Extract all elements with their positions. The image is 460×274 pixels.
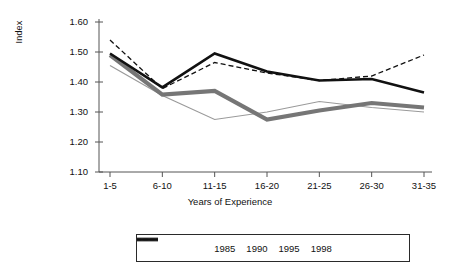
legend-item-1995: 1995 bbox=[279, 243, 300, 254]
chart-legend: 1985199019951998 bbox=[136, 234, 410, 262]
chart-figure: Index 1.101.201.301.401.501.60 1-56-1011… bbox=[0, 0, 460, 274]
y-tick-label: 1.50 bbox=[46, 46, 88, 57]
y-tick-label: 1.30 bbox=[46, 106, 88, 117]
legend-item-1998: 1998 bbox=[311, 243, 332, 254]
legend-label: 1998 bbox=[311, 243, 332, 254]
legend-label: 1985 bbox=[214, 243, 235, 254]
x-axis-title: Years of Experience bbox=[0, 196, 460, 207]
x-tick-label: 1-5 bbox=[103, 180, 117, 191]
y-tick-label: 1.20 bbox=[46, 136, 88, 147]
y-tick-label: 1.10 bbox=[46, 166, 88, 177]
x-tick-label: 11-15 bbox=[203, 180, 227, 191]
series-line-1995 bbox=[110, 54, 424, 93]
x-tick-label: 26-30 bbox=[360, 180, 384, 191]
legend-item-1985: 1985 bbox=[214, 243, 235, 254]
y-tick-label: 1.40 bbox=[46, 76, 88, 87]
series-line-1990 bbox=[110, 55, 424, 120]
y-tick-label: 1.60 bbox=[46, 16, 88, 27]
legend-label: 1995 bbox=[279, 243, 300, 254]
legend-swatch-1998 bbox=[137, 235, 158, 244]
legend-item-1990: 1990 bbox=[246, 243, 267, 254]
legend-label: 1990 bbox=[246, 243, 267, 254]
x-tick-label: 6-10 bbox=[153, 180, 172, 191]
x-tick-label: 16-20 bbox=[255, 180, 279, 191]
x-tick-label: 21-25 bbox=[307, 180, 331, 191]
x-tick-label: 31-35 bbox=[412, 180, 436, 191]
